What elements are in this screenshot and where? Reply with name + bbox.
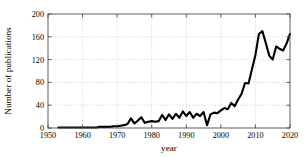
x-tick-label: 1990 xyxy=(178,131,194,140)
plot-background xyxy=(48,14,290,128)
x-tick-label: 1960 xyxy=(74,131,90,140)
y-tick-label: 80 xyxy=(36,78,44,87)
x-tick-label: 2010 xyxy=(247,131,263,140)
x-tick-label: 1950 xyxy=(40,131,56,140)
x-tick-label: 2000 xyxy=(213,131,229,140)
y-tick-label: 40 xyxy=(36,101,44,110)
y-tick-label: 120 xyxy=(32,56,44,65)
x-axis-tick-labels: 19501960197019801990200020102020 xyxy=(40,131,298,140)
chart-figure: 04080120160200 1950196019701980199020002… xyxy=(0,0,307,157)
x-tick-label: 2020 xyxy=(282,131,298,140)
y-axis-tick-labels: 04080120160200 xyxy=(32,10,44,133)
x-tick-label: 1970 xyxy=(109,131,125,140)
y-tick-label: 200 xyxy=(32,10,44,19)
y-tick-label: 160 xyxy=(32,33,44,42)
y-axis-title: Number of publications xyxy=(3,27,13,115)
x-tick-label: 1980 xyxy=(144,131,160,140)
x-axis-title: year xyxy=(161,143,177,153)
publications-line-chart: 04080120160200 1950196019701980199020002… xyxy=(0,0,307,157)
